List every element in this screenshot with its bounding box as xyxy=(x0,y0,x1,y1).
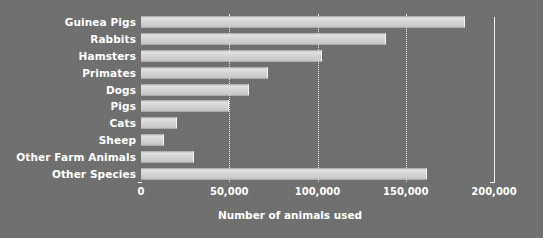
xtick-label-50000: 50,000 xyxy=(210,186,249,197)
axis-spine-right xyxy=(494,17,495,183)
bar-row-rabbits: Rabbits xyxy=(0,31,543,48)
category-label: Other Species xyxy=(52,168,141,180)
bar-row-hamsters: Hamsters xyxy=(0,48,543,65)
bar-row-primates: Primates xyxy=(0,64,543,81)
bar-rabbits xyxy=(141,34,386,45)
category-label: Rabbits xyxy=(90,33,141,45)
x-axis-title: Number of animals used xyxy=(218,209,362,221)
category-label: Sheep xyxy=(99,134,141,146)
bar-row-sheep: Sheep xyxy=(0,132,543,149)
bar-sheep xyxy=(141,134,164,145)
bar-other-species xyxy=(141,168,427,179)
xtick-label-100000: 100,000 xyxy=(295,186,341,197)
bar-row-other-farm-animals: Other Farm Animals xyxy=(0,148,543,165)
category-label: Hamsters xyxy=(79,50,141,62)
xtick-label-0: 0 xyxy=(138,186,145,197)
bar-row-pigs: Pigs xyxy=(0,98,543,115)
axis-spine-right-tick xyxy=(490,182,495,183)
bar-row-dogs: Dogs xyxy=(0,81,543,98)
bar-primates xyxy=(141,67,268,78)
bar-guinea-pigs xyxy=(141,17,465,28)
bar-hamsters xyxy=(141,50,322,61)
axis-baseline-tick xyxy=(138,182,142,183)
bar-row-cats: Cats xyxy=(0,115,543,132)
bar-other-farm-animals xyxy=(141,151,194,162)
bar-dogs xyxy=(141,84,249,95)
category-label: Primates xyxy=(82,67,141,79)
category-label: Other Farm Animals xyxy=(16,151,141,163)
xtick-label-200000: 200,000 xyxy=(471,186,517,197)
bar-chart: Guinea Pigs Rabbits Hamsters Primates Do… xyxy=(0,0,543,238)
category-label: Guinea Pigs xyxy=(65,16,141,28)
category-label: Cats xyxy=(110,117,141,129)
xtick-label-150000: 150,000 xyxy=(383,186,429,197)
bar-pigs xyxy=(141,101,229,112)
bar-row-guinea-pigs: Guinea Pigs xyxy=(0,14,543,31)
category-label: Dogs xyxy=(106,84,141,96)
bar-row-other-species: Other Species xyxy=(0,165,543,182)
bar-rows: Guinea Pigs Rabbits Hamsters Primates Do… xyxy=(0,14,543,182)
bar-cats xyxy=(141,118,177,129)
category-label: Pigs xyxy=(111,100,141,112)
